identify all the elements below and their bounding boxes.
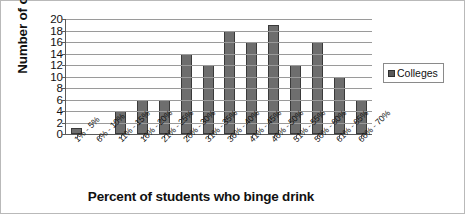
y-tick-mark	[62, 54, 66, 55]
y-tick-mark	[62, 77, 66, 78]
chart-frame: Number of colleges 02468101214161820 1% …	[0, 0, 465, 214]
y-tick-mark	[62, 65, 66, 66]
gridline	[66, 19, 372, 20]
gridline	[66, 77, 372, 78]
gridline	[66, 65, 372, 66]
y-tick-mark	[62, 111, 66, 112]
x-axis-title: Percent of students who binge drink	[1, 189, 401, 204]
y-axis-title: Number of colleges	[12, 0, 32, 78]
y-tick-mark	[62, 31, 66, 32]
y-tick-mark	[62, 88, 66, 89]
gridline	[66, 100, 372, 101]
y-tick-mark	[62, 134, 66, 135]
y-axis-tick-labels: 02468101214161820	[41, 13, 63, 137]
y-tick-mark	[62, 42, 66, 43]
gridline	[66, 54, 372, 55]
gridline	[66, 111, 372, 112]
gridline	[66, 31, 372, 32]
gridline	[66, 88, 372, 89]
plot-area	[65, 19, 372, 135]
y-tick-mark	[62, 123, 66, 124]
legend-label: Colleges	[397, 67, 438, 79]
legend-swatch-icon	[388, 70, 395, 77]
gridline	[66, 42, 372, 43]
y-tick-mark	[62, 19, 66, 20]
y-tick-mark	[62, 100, 66, 101]
x-axis-tick-labels: 1% - 5%6% - 10%11% - 15%16% - 20%21% - 2…	[65, 137, 371, 183]
legend: Colleges	[383, 63, 444, 83]
